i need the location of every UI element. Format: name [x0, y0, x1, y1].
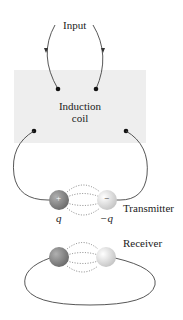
induction-coil-label-line2: coil [55, 113, 105, 124]
spark-gap-diagram [0, 0, 183, 320]
receiver-spark-field [67, 243, 98, 273]
negative-sign: − [104, 194, 109, 203]
charge-negative-label: −q [100, 213, 113, 224]
receiver-loop [25, 258, 155, 305]
transmitter-spark-field [67, 185, 100, 215]
induction-coil-label-line1: Induction [55, 101, 105, 112]
arrow-down-icon [101, 48, 105, 53]
terminal-dot [94, 87, 99, 92]
positive-sign: + [56, 194, 61, 203]
receiver-label: Receiver [123, 238, 162, 249]
input-label: Input [63, 20, 86, 31]
receiver-sphere-left [49, 247, 69, 267]
receiver-sphere-right [96, 247, 116, 267]
charge-positive-label: q [56, 213, 62, 224]
transmitter-label: Transmitter [123, 203, 174, 214]
terminal-dot [56, 87, 61, 92]
